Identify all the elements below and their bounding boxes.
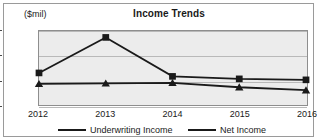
series-lines xyxy=(39,31,307,105)
y-axis-tick-mark xyxy=(0,30,2,31)
plot-area xyxy=(38,30,308,106)
y-axis-unit-label: ($mil) xyxy=(24,9,47,19)
legend-label-net-income: Net Income xyxy=(220,125,266,135)
legend-swatch-net xyxy=(188,125,216,135)
y-axis-tick-mark xyxy=(0,81,2,82)
legend-swatch-underwriting xyxy=(58,125,86,135)
legend-item-net-income: Net Income xyxy=(188,124,266,136)
x-axis-tick-label: 2015 xyxy=(230,109,250,119)
x-axis-tick-label: 2012 xyxy=(28,109,48,119)
x-axis-tick-label: 2016 xyxy=(297,109,317,119)
x-axis-tick-label: 2013 xyxy=(95,109,115,119)
chart-screenshot: ($mil) Income Trends 0000500005000 20122… xyxy=(0,0,317,140)
data-point-square xyxy=(236,76,243,83)
data-point-square xyxy=(36,70,43,77)
data-point-square xyxy=(169,73,176,80)
legend-item-underwriting-income: Underwriting Income xyxy=(58,124,173,136)
chart-legend: Underwriting Income Net Income xyxy=(38,124,308,138)
triangle-marker-icon xyxy=(68,126,76,140)
x-axis-tick-label: 2014 xyxy=(162,109,182,119)
y-axis-tick-mark xyxy=(0,106,2,107)
gridline xyxy=(39,107,307,108)
data-point-square xyxy=(303,77,310,84)
chart-title: Income Trends xyxy=(104,8,234,19)
legend-label-underwriting-income: Underwriting Income xyxy=(90,125,173,135)
y-axis-tick-mark xyxy=(0,55,2,56)
data-point-square xyxy=(102,34,109,41)
